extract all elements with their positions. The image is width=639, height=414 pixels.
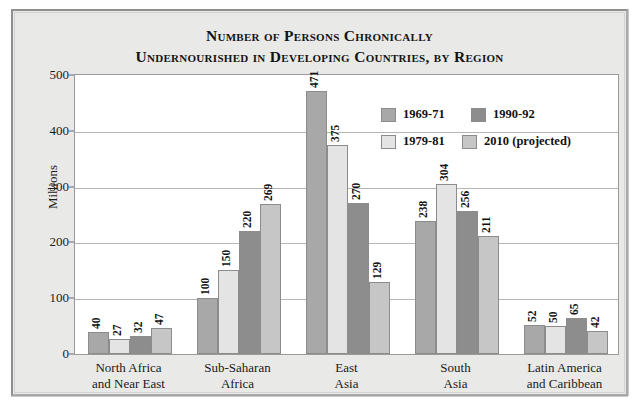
legend-swatch-icon [471,108,486,122]
bar-value-label: 129 [371,262,383,279]
x-axis-category-label: SouthAsia [401,360,510,392]
legend-row: 1979-81 2010 (projected) [381,134,571,149]
x-axis-category-label: North Africaand Near East [74,360,183,392]
bar-value-label: 27 [111,324,123,336]
bar[interactable]: 32 [130,336,151,354]
bar-value-label: 150 [220,250,232,267]
bar-value-label: 256 [459,191,471,208]
legend-label: 1990-92 [493,107,535,122]
bar[interactable]: 27 [109,339,130,354]
bar[interactable]: 42 [587,331,608,354]
bar[interactable]: 211 [478,236,499,354]
bar-value-label: 100 [199,278,211,295]
bar-value-label: 47 [153,313,165,325]
bar-value-label: 220 [241,211,253,228]
legend-label: 1969-71 [403,107,445,122]
bar[interactable]: 100 [197,298,218,354]
bar-value-label: 375 [329,125,341,142]
x-axis-category-line: East [292,360,401,376]
bar-group: 471375270129 [306,75,390,354]
bar[interactable]: 52 [524,325,545,354]
x-axis-category-line: Sub-Saharan [183,360,292,376]
bar-value-label: 52 [526,310,538,322]
bar-value-label: 304 [438,164,450,181]
bar[interactable]: 220 [239,231,260,354]
bar[interactable]: 40 [88,332,109,354]
chart-title-line-1: Number of Persons Chronically [13,25,626,46]
bar-value-label: 270 [350,183,362,200]
legend-swatch-icon [381,108,396,122]
legend-label: 2010 (projected) [484,134,571,149]
bar[interactable]: 269 [260,204,281,354]
chart-frame: Number of Persons Chronically Undernouri… [11,9,628,396]
x-axis-category-label: Sub-SaharanAfrica [183,360,292,392]
x-axis-category-line: South [401,360,510,376]
legend-item-1990-92: 1990-92 [471,107,535,122]
legend-item-1979-81: 1979-81 [381,134,462,149]
legend-item-2010-projected: 2010 (projected) [462,134,571,149]
bar[interactable]: 238 [415,221,436,354]
bar-group: 40273247 [88,75,172,354]
legend-label: 1979-81 [403,134,445,149]
bar-value-label: 238 [417,201,429,218]
bar[interactable]: 50 [545,326,566,354]
y-tick-label: 100 [27,290,69,306]
y-tick-label: 500 [27,67,69,83]
bar-value-label: 32 [132,322,144,334]
y-tick-label: 0 [27,346,69,362]
bar-value-label: 269 [262,184,274,201]
x-axis-category-line: North Africa [74,360,183,376]
x-axis-category-line: Asia [292,376,401,392]
y-axis-ticks: 0100200300400500 [21,74,69,355]
bar-value-label: 211 [480,217,492,234]
bar-value-label: 50 [547,312,559,324]
bar-value-label: 65 [568,303,580,315]
x-axis-labels: North Africaand Near EastSub-SaharanAfri… [74,360,619,400]
x-axis-category-line: Africa [183,376,292,392]
chart-title-line-2: Undernourished in Developing Countries, … [13,46,626,67]
x-axis-category-line: and Near East [74,376,183,392]
bar-group: 100150220269 [197,75,281,354]
x-axis-category-line: and Caribbean [510,376,619,392]
bar[interactable]: 270 [348,203,369,354]
legend-item-1969-71: 1969-71 [381,107,471,122]
bar[interactable]: 471 [306,91,327,354]
bar[interactable]: 304 [436,184,457,354]
x-axis-category-line: Latin America [510,360,619,376]
chart-title: Number of Persons Chronically Undernouri… [13,25,626,67]
bar[interactable]: 150 [218,270,239,354]
y-tick-label: 300 [27,179,69,195]
bar-value-label: 42 [589,316,601,328]
x-axis-category-label: EastAsia [292,360,401,392]
bar[interactable]: 375 [327,145,348,354]
legend-swatch-icon [462,135,477,149]
bar[interactable]: 47 [151,328,172,354]
bar-value-label: 40 [90,317,102,329]
legend-row: 1969-71 1990-92 [381,107,571,122]
x-axis-category-label: Latin Americaand Caribbean [510,360,619,392]
bar[interactable]: 129 [369,282,390,354]
y-tick-label: 200 [27,234,69,250]
y-tick-label: 400 [27,123,69,139]
x-axis-category-line: Asia [401,376,510,392]
bar-value-label: 471 [308,71,320,88]
chart-legend: 1969-71 1990-92 1979-81 2010 (projected) [381,107,571,161]
bar[interactable]: 256 [457,211,478,354]
legend-swatch-icon [381,135,396,149]
bar[interactable]: 65 [566,318,587,354]
